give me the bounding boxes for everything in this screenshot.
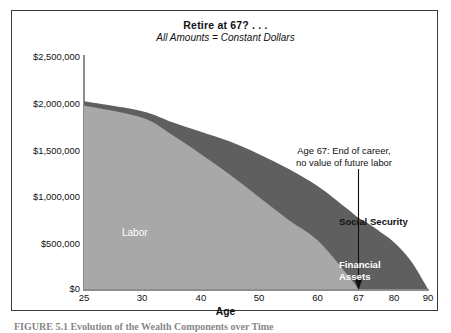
y-tick-2000000: $2,000,000 xyxy=(14,98,80,109)
figure-container: Retire at 67? . . . All Amounts = Consta… xyxy=(0,0,451,333)
x-tick-67: 67 xyxy=(353,292,364,303)
x-tick-80: 80 xyxy=(389,292,400,303)
plot-area xyxy=(84,55,428,289)
x-tick-25: 25 xyxy=(79,292,90,303)
annotation-line-1: Age 67: End of career, xyxy=(264,145,424,157)
x-axis-line xyxy=(83,289,429,291)
y-tick-1000000: $1,000,000 xyxy=(14,191,80,202)
area-label-financial-assets: Financial Assets xyxy=(339,259,381,282)
area-label-labor: Labor xyxy=(122,227,148,238)
annotation-text: Age 67: End of career, no value of futur… xyxy=(264,145,424,168)
figure-caption-text: FIGURE 5.1 Evolution of the Wealth Compo… xyxy=(14,322,434,332)
y-axis-ticks: $2,500,000 $2,000,000 $1,500,000 $1,000,… xyxy=(12,11,80,312)
x-tick-30: 30 xyxy=(137,292,148,303)
area-label-financial: Financial xyxy=(339,259,381,271)
area-chart-svg xyxy=(84,55,428,289)
figure-caption: FIGURE 5.1 Evolution of the Wealth Compo… xyxy=(14,322,434,333)
y-tick-2500000: $2,500,000 xyxy=(14,51,80,62)
y-tick-500000: $500,000 xyxy=(14,238,80,249)
y-tick-1500000: $1,500,000 xyxy=(14,145,80,156)
area-label-assets: Assets xyxy=(339,271,381,283)
x-tick-50: 50 xyxy=(254,292,265,303)
annotation-line-2: no value of future labor xyxy=(264,157,424,169)
area-label-social-security: Social Security xyxy=(339,216,408,227)
x-tick-40: 40 xyxy=(196,292,207,303)
chart-frame: Retire at 67? . . . All Amounts = Consta… xyxy=(11,10,438,311)
x-tick-60: 60 xyxy=(312,292,323,303)
x-axis-label: Age xyxy=(12,306,439,317)
x-tick-90: 90 xyxy=(423,292,434,303)
